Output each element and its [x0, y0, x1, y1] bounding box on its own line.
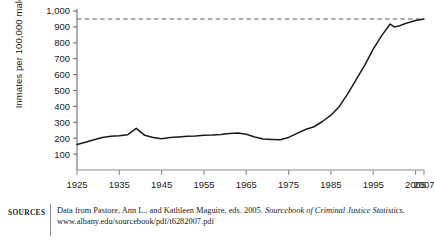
x-tick-label: 1965 — [236, 179, 257, 190]
x-tick-label: 1995 — [363, 179, 384, 190]
x-tick-label: 2007 — [413, 179, 434, 190]
line-chart: 1,000900800700600500400300200100 1925193… — [0, 0, 434, 198]
y-tick-label: 100 — [54, 149, 70, 160]
data-series-line — [77, 19, 424, 145]
x-tick-label: 1985 — [320, 179, 341, 190]
source-divider — [50, 204, 51, 236]
x-tick-label: 1925 — [66, 179, 87, 190]
sources-label: SOURCES — [8, 208, 45, 217]
source-block: SOURCES Data from Pastore, Ann L., and K… — [0, 202, 434, 244]
y-tick-label: 800 — [54, 37, 70, 48]
x-tick-label: 1955 — [193, 179, 214, 190]
y-tick-label: 200 — [54, 133, 70, 144]
x-tick-label: 1975 — [278, 179, 299, 190]
y-tick-label: 1,000 — [46, 5, 70, 16]
source-title-line1: Sourcebook of Criminal Justice — [265, 206, 373, 215]
y-axis-tick-labels: 1,000900800700600500400300200100 — [46, 5, 70, 159]
y-tick-label: 500 — [54, 85, 70, 96]
figure-container: Inmates per 100,000 males 1,000900800700… — [0, 0, 434, 244]
source-title-line2: Statistics. — [373, 206, 405, 215]
source-text: Data from Pastore, Ann L., and Kathleen … — [57, 205, 429, 228]
y-tick-label: 700 — [54, 53, 70, 64]
y-tick-label: 300 — [54, 117, 70, 128]
y-tick-label: 400 — [54, 101, 70, 112]
x-axis-tick-labels: 1925193519451955196519751985199520052007 — [66, 179, 434, 190]
chart-region: Inmates per 100,000 males 1,000900800700… — [0, 0, 434, 198]
x-tick-label: 1935 — [109, 179, 130, 190]
y-tick-label: 600 — [54, 69, 70, 80]
source-text-lead: Data from Pastore, Ann L., and Kathleen … — [57, 206, 265, 215]
source-url: www.albany.edu/sourcebook/pdf/t6282007.p… — [57, 217, 214, 226]
y-tick-label: 900 — [54, 21, 70, 32]
y-axis-tick-marks — [73, 11, 77, 154]
x-axis-tick-marks — [77, 170, 424, 175]
x-tick-label: 1945 — [151, 179, 172, 190]
